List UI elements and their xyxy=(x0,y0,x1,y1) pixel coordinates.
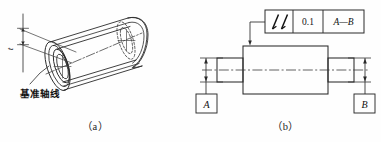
tube-outer-surface xyxy=(50,27,136,85)
fcf-datum-reference: A—B xyxy=(332,17,353,27)
tolerance-width-dimension xyxy=(18,14,29,72)
datum-a-letter: A xyxy=(202,99,210,110)
feature-control-frame: 0.1 A—B xyxy=(265,10,364,33)
tolerance-zone-width-label: t xyxy=(5,48,15,51)
datum-a-indicator xyxy=(200,58,223,94)
datum-a-symbol-box: A xyxy=(196,94,217,113)
fcf-tolerance-value: 0.1 xyxy=(302,17,314,27)
datum-b-indicator xyxy=(348,58,371,94)
datum-axis-leader xyxy=(30,66,49,84)
tolerance-zone-inner-envelope xyxy=(45,22,144,89)
figure-root: t 基准轴线 （a） xyxy=(0,0,381,142)
datum-b-letter: B xyxy=(361,99,367,110)
figure-panel-a: t 基准轴线 （a） xyxy=(0,0,190,142)
datum-b-symbol-box: B xyxy=(354,94,375,113)
fcf-leader-line xyxy=(248,22,265,46)
panel-b-caption: （b） xyxy=(190,118,381,133)
tolerance-zone-outer-envelope xyxy=(40,17,148,93)
figure-panel-b: A B xyxy=(190,0,381,142)
panel-a-caption: （a） xyxy=(0,118,190,133)
datum-axis-text-label: 基准轴线 xyxy=(20,86,60,100)
